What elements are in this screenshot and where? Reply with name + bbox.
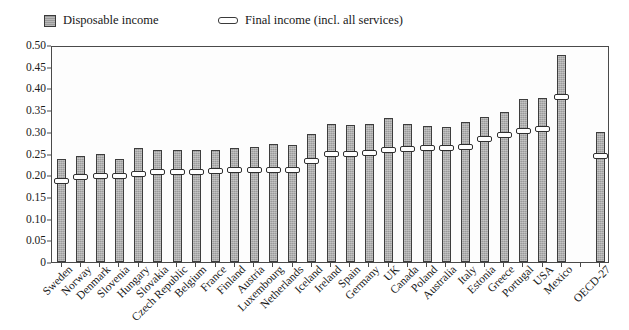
marker-final-income: [73, 174, 88, 180]
bar-group: [211, 47, 220, 262]
bar-disposable-income: [96, 154, 105, 262]
bar-group: [230, 47, 239, 262]
bar-disposable-income: [403, 124, 412, 262]
bar-disposable-income: [192, 150, 201, 262]
bar-disposable-income: [134, 148, 143, 262]
bar-disposable-income: [384, 118, 393, 262]
marker-final-income: [247, 167, 262, 173]
bar-disposable-income: [596, 132, 605, 262]
legend-item-final-income: Final income (incl. all services): [218, 14, 403, 27]
bar-group: [403, 47, 412, 262]
marker-final-income: [131, 171, 146, 177]
bar-group: [173, 47, 182, 262]
y-axis-tick-label: 0.35: [26, 105, 46, 117]
marker-final-income: [381, 147, 396, 153]
y-axis-tick-label: 0.05: [26, 236, 46, 248]
x-axis-label: OECD-27: [571, 263, 612, 304]
y-axis-tick-label: 0.30: [26, 127, 46, 139]
marker-final-income: [189, 169, 204, 175]
bar-group: [480, 47, 489, 262]
bar-disposable-income: [211, 150, 220, 262]
bar-group: [327, 47, 336, 262]
marker-final-income: [112, 173, 127, 179]
bar-disposable-income: [288, 145, 297, 262]
marker-final-income: [93, 173, 108, 179]
hollow-bar-marker-icon: [218, 17, 238, 24]
x-axis-labels: SwedenNorwayDenmarkSloveniaHungarySlovak…: [0, 263, 629, 330]
bar-group: [442, 47, 451, 262]
marker-final-income: [477, 136, 492, 142]
legend-label-final-income: Final income (incl. all services): [245, 14, 403, 27]
marker-final-income: [54, 178, 69, 184]
y-axis-tick-label: 0.45: [26, 62, 46, 74]
bar-disposable-income: [76, 156, 85, 262]
y-axis-tick-label: 0.40: [26, 84, 46, 96]
marker-final-income: [343, 151, 358, 157]
bar-group: [384, 47, 393, 262]
y-axis: 00.050.100.150.200.250.300.350.400.450.5…: [0, 46, 51, 263]
bar-group: [57, 47, 66, 262]
bar-group: [307, 47, 316, 262]
marker-final-income: [150, 169, 165, 175]
bar-disposable-income: [346, 125, 355, 262]
marker-final-income: [304, 158, 319, 164]
bar-group: [365, 47, 374, 262]
marker-final-income: [420, 145, 435, 151]
chart-figure: Disposable income Final income (incl. al…: [0, 0, 629, 330]
marker-final-income: [227, 167, 242, 173]
chart-legend: Disposable income Final income (incl. al…: [0, 14, 629, 36]
bar-disposable-income: [57, 159, 66, 262]
marker-final-income: [439, 145, 454, 151]
bar-disposable-income: [307, 134, 316, 262]
bar-group: [269, 47, 278, 262]
bar-group: [250, 47, 259, 262]
bar-disposable-income: [269, 144, 278, 262]
bar-group: [134, 47, 143, 262]
y-axis-tick-label: 0.20: [26, 170, 46, 182]
bar-group: [346, 47, 355, 262]
legend-item-disposable-income: Disposable income: [44, 14, 158, 27]
bar-group: [596, 47, 605, 262]
y-axis-tick-label: 0.50: [26, 40, 46, 52]
marker-final-income: [170, 169, 185, 175]
y-axis-tick-label: 0.10: [26, 214, 46, 226]
bar-disposable-income: [327, 124, 336, 262]
bar-group: [192, 47, 201, 262]
bar-disposable-income: [230, 148, 239, 262]
marker-final-income: [324, 151, 339, 157]
bar-group: [153, 47, 162, 262]
bar-disposable-income: [173, 150, 182, 262]
filled-square-swatch-icon: [44, 15, 56, 27]
marker-final-income: [593, 153, 608, 159]
legend-label-disposable-income: Disposable income: [63, 14, 158, 27]
bar-group: [461, 47, 470, 262]
bar-disposable-income: [250, 147, 259, 262]
marker-final-income: [554, 94, 569, 100]
plot-area: [51, 46, 609, 263]
bar-group: [423, 47, 432, 262]
marker-final-income: [208, 168, 223, 174]
bar-disposable-income: [557, 55, 566, 262]
bar-disposable-income: [365, 124, 374, 262]
bar-group: [76, 47, 85, 262]
bar-group: [96, 47, 105, 262]
bar-group: [115, 47, 124, 262]
bar-group: [519, 47, 528, 262]
bars-layer: [52, 47, 608, 262]
y-axis-tick-label: 0.25: [26, 149, 46, 161]
marker-final-income: [285, 167, 300, 173]
bar-group: [500, 47, 509, 262]
marker-final-income: [535, 126, 550, 132]
marker-final-income: [516, 128, 531, 134]
bar-disposable-income: [519, 99, 528, 262]
marker-final-income: [458, 144, 473, 150]
bar-group: [288, 47, 297, 262]
y-axis-tick-label: 0.15: [26, 192, 46, 204]
marker-final-income: [497, 132, 512, 138]
marker-final-income: [362, 150, 377, 156]
bar-disposable-income: [538, 98, 547, 262]
bar-group: [538, 47, 547, 262]
marker-final-income: [266, 167, 281, 173]
bar-disposable-income: [153, 150, 162, 262]
marker-final-income: [400, 146, 415, 152]
